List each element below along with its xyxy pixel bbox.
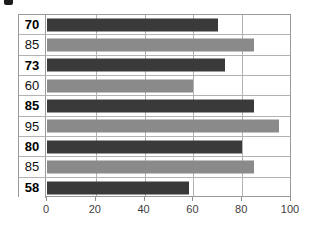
row-label: 95	[25, 120, 40, 133]
bar	[47, 160, 254, 173]
bar	[47, 99, 254, 112]
table-row: 95	[19, 117, 290, 137]
bar-rows: 708573608595808558	[19, 15, 290, 196]
row-label: 58	[25, 181, 40, 194]
table-row: 85	[19, 35, 290, 55]
bar	[47, 181, 189, 194]
plot-area: 708573608595808558	[18, 14, 291, 197]
row-label-cell: 85	[19, 157, 46, 176]
row-label-cell: 60	[19, 76, 46, 95]
row-label: 80	[25, 140, 40, 153]
table-row: 80	[19, 137, 290, 157]
row-label-cell: 73	[19, 56, 46, 75]
bar	[47, 38, 254, 51]
x-tick-80	[241, 197, 242, 201]
row-label: 60	[25, 79, 40, 92]
row-label-cell: 80	[19, 137, 46, 156]
x-tick-100	[290, 197, 291, 201]
x-tick-20	[95, 197, 96, 201]
x-tick-label: 60	[186, 203, 198, 215]
x-tick-label: 40	[137, 203, 149, 215]
bar	[47, 140, 242, 153]
table-row: 60	[19, 76, 290, 96]
bar	[47, 59, 225, 72]
table-row: 73	[19, 56, 290, 76]
row-label-cell: 85	[19, 35, 46, 54]
x-tick-label: 80	[235, 203, 247, 215]
row-label-cell: 70	[19, 15, 46, 34]
x-tick-40	[144, 197, 145, 201]
row-label: 70	[25, 18, 40, 31]
x-tick-0	[46, 197, 47, 201]
row-label: 85	[25, 99, 40, 112]
row-label: 85	[25, 38, 40, 51]
table-row: 85	[19, 157, 290, 177]
bar-chart: 708573608595808558 020406080100	[0, 0, 312, 225]
row-label-cell: 95	[19, 117, 46, 136]
table-row: 70	[19, 15, 290, 35]
bar	[47, 18, 218, 31]
table-row: 58	[19, 178, 290, 198]
x-tick-label: 0	[43, 203, 49, 215]
bar	[47, 120, 279, 133]
table-row: 85	[19, 96, 290, 116]
row-label: 85	[25, 160, 40, 173]
bar	[47, 79, 193, 92]
cropped-glyph-fragment	[4, 0, 13, 5]
x-tick-60	[192, 197, 193, 201]
row-label: 73	[25, 59, 40, 72]
x-tick-label: 20	[89, 203, 101, 215]
row-label-cell: 85	[19, 96, 46, 115]
x-tick-label: 100	[281, 203, 299, 215]
x-axis-tick-labels: 020406080100	[0, 203, 312, 219]
row-label-cell: 58	[19, 178, 46, 198]
